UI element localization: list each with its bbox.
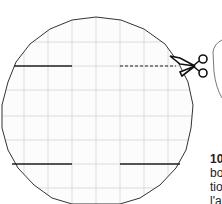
caption-line-1: bo [210,166,222,180]
caption-line-2: tio [210,180,222,194]
next-figure-outline [213,40,222,98]
diagram-canvas [0,0,222,204]
step-caption: 10 bo tio l'a [210,152,222,204]
caption-line-3: l'a [210,194,222,204]
step-number: 10 [210,152,222,166]
grid-paper [0,0,200,204]
